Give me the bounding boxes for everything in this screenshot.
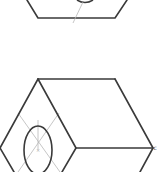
upper-prism (27, 0, 127, 23)
center-mark: × (36, 147, 40, 153)
upper-construction-line (73, 2, 83, 23)
diagram-canvas: × c (0, 0, 158, 172)
vertex-label: c (154, 144, 157, 151)
left-hex-edge (0, 79, 38, 172)
front-hex-right-edge (38, 79, 76, 172)
right-edge (115, 79, 153, 172)
upper-ellipse-arc (77, 0, 93, 3)
lower-prism: × c (0, 79, 157, 172)
